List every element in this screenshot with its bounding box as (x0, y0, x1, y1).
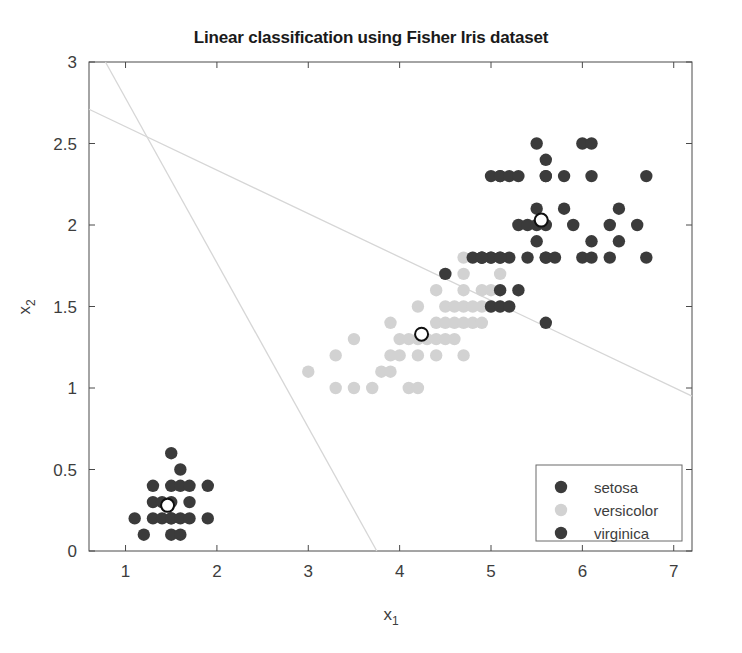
data-point (183, 480, 195, 492)
data-point (530, 137, 542, 149)
data-point (348, 382, 360, 394)
data-point (329, 349, 341, 361)
data-point (202, 512, 214, 524)
data-point (138, 529, 150, 541)
data-point (540, 317, 552, 329)
y-tick-label: 3 (68, 53, 77, 72)
data-point (457, 349, 469, 361)
data-point (384, 317, 396, 329)
y-axis-title: x2 (15, 299, 38, 315)
data-point (640, 170, 652, 182)
data-point (521, 251, 533, 263)
legend-marker-versicolor (555, 504, 567, 516)
data-point (512, 284, 524, 296)
data-point (393, 349, 405, 361)
x-axis-title: x1 (383, 605, 399, 628)
data-point (412, 349, 424, 361)
data-point (366, 382, 378, 394)
data-point (613, 235, 625, 247)
data-point (585, 251, 597, 263)
legend-marker-setosa (555, 481, 567, 493)
centroid-marker (161, 499, 174, 512)
x-tick-label: 4 (395, 562, 404, 581)
y-tick-label: 1.5 (53, 298, 77, 317)
data-point (585, 170, 597, 182)
data-point (503, 300, 515, 312)
x-tick-label: 5 (486, 562, 495, 581)
data-point (348, 333, 360, 345)
x-tick-label: 1 (121, 562, 130, 581)
legend-label-versicolor: versicolor (594, 502, 658, 519)
data-point (329, 382, 341, 394)
data-point (430, 284, 442, 296)
data-point (567, 219, 579, 231)
data-point (202, 480, 214, 492)
y-tick-label: 1 (68, 379, 77, 398)
data-point (613, 203, 625, 215)
data-point (585, 235, 597, 247)
data-point (558, 203, 570, 215)
data-point (128, 512, 140, 524)
x-tick-label: 2 (212, 562, 221, 581)
data-point (558, 170, 570, 182)
data-point (174, 463, 186, 475)
data-point (430, 349, 442, 361)
x-tick-label: 3 (304, 562, 313, 581)
data-point (457, 268, 469, 280)
data-point (476, 251, 488, 263)
data-point (585, 137, 597, 149)
data-point (302, 366, 314, 378)
data-point (549, 251, 561, 263)
legend: setosaversicolorvirginica (536, 465, 682, 542)
data-point (540, 154, 552, 166)
y-tick-label: 0.5 (53, 461, 77, 480)
scatter-plot: 123456700.511.522.53 x1 x2 setosaversico… (0, 0, 742, 653)
data-point (448, 333, 460, 345)
data-point (412, 300, 424, 312)
data-point (412, 382, 424, 394)
data-point (439, 268, 451, 280)
data-point (165, 447, 177, 459)
data-point (494, 268, 506, 280)
data-point (183, 512, 195, 524)
legend-label-virginica: virginica (594, 525, 650, 542)
data-point (476, 317, 488, 329)
data-point (540, 170, 552, 182)
data-point (494, 251, 506, 263)
data-point (494, 284, 506, 296)
y-tick-label: 2.5 (53, 135, 77, 154)
centroid-marker (415, 328, 428, 341)
legend-marker-virginica (555, 527, 567, 539)
data-point (183, 496, 195, 508)
data-point (457, 284, 469, 296)
legend-label-setosa: setosa (594, 479, 639, 496)
data-point (640, 251, 652, 263)
data-point (512, 170, 524, 182)
x-tick-label: 6 (578, 562, 587, 581)
data-point (174, 529, 186, 541)
y-tick-label: 0 (68, 542, 77, 561)
data-point (384, 366, 396, 378)
x-tick-label: 7 (669, 562, 678, 581)
chart-figure: Linear classification using Fisher Iris … (0, 0, 742, 653)
data-point (604, 219, 616, 231)
y-tick-label: 2 (68, 216, 77, 235)
data-point (530, 235, 542, 247)
data-point (631, 219, 643, 231)
data-point (604, 251, 616, 263)
centroid-marker (535, 214, 548, 227)
data-point (147, 480, 159, 492)
